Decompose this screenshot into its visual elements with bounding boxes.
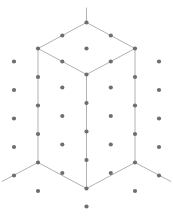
top-face-edge-lr-mid-dot	[109, 59, 113, 63]
right-edge-row3-dot	[133, 103, 137, 107]
center-edge-row4-dot	[84, 158, 88, 162]
outer-right-col-row3-dot	[157, 116, 161, 120]
top-face-center-dot	[84, 46, 88, 50]
top-face-corner-right-dot	[133, 46, 137, 50]
right-edge-row4-dot	[133, 132, 137, 136]
outer-right-col-row4-dot	[157, 145, 161, 149]
below-left-lower-dot	[36, 189, 40, 193]
outer-left-col-row3-dot	[12, 116, 16, 120]
outer-right-col-row2-dot	[157, 88, 161, 92]
center-edge-row3-dot	[84, 129, 88, 133]
right-face-center-row2-dot	[109, 114, 113, 118]
left-face-center-row4-dot	[60, 171, 64, 175]
below-center-lowest-dot	[84, 204, 88, 208]
below-right-lower-dot	[133, 189, 137, 193]
center-edge-row2-dot	[84, 101, 88, 105]
outer-left-col-row2-dot	[12, 88, 16, 92]
left-edge-row3-dot	[36, 103, 40, 107]
center-edge-row5-dot	[84, 186, 88, 190]
left-face-center-row1-dot	[60, 85, 64, 89]
outer-right-col-row1-dot	[157, 59, 161, 63]
lattice-canvas	[0, 0, 173, 216]
top-face-edge-ur-mid-dot	[109, 33, 113, 37]
outer-right-col-row5-dot	[157, 173, 161, 177]
top-face-edge-ul-mid-dot	[60, 33, 64, 37]
right-edge-row5-dot	[133, 160, 137, 164]
top-face-apex-dot	[84, 20, 88, 24]
right-face-center-row3-dot	[109, 142, 113, 146]
left-edge-row2-dot	[36, 75, 40, 79]
left-edge-row5-dot	[36, 160, 40, 164]
left-edge-row4-dot	[36, 132, 40, 136]
outer-left-col-row4-dot	[12, 145, 16, 149]
top-face-corner-left-dot	[36, 46, 40, 50]
front-vertex-top-dot	[84, 72, 88, 76]
left-face-center-row3-dot	[60, 142, 64, 146]
lattice-figure	[0, 0, 173, 216]
top-face-edge-ll-mid-dot	[60, 59, 64, 63]
outer-left-col-row5-dot	[12, 173, 16, 177]
right-edge-row2-dot	[133, 75, 137, 79]
outer-left-col-row1-dot	[12, 59, 16, 63]
right-face-center-row4-dot	[109, 171, 113, 175]
right-face-center-row1-dot	[109, 85, 113, 89]
left-face-center-row2-dot	[60, 114, 64, 118]
